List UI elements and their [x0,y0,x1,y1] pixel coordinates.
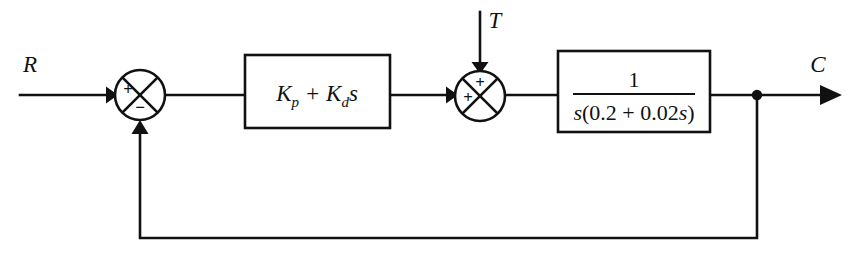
plant-denominator-close-paren: ) [687,100,694,125]
plant-denominator-s-lead: s [573,100,582,125]
plant-denominator-coef-a: 0.2 [589,100,617,125]
plant-denominator: s(0.2 + 0.02s) [573,100,694,125]
output-arrowhead [820,85,842,105]
plant-denominator-s-trail: s [679,100,688,125]
disturbance-junction-top-plus-sign: + [475,73,485,92]
controller-s-symbol: s [349,81,358,106]
output-label: C [810,52,826,77]
plant-numerator: 1 [629,67,640,92]
disturbance-input-label: T [489,8,504,33]
controller-block[interactable]: Kp + Kds [245,55,390,128]
controller-plus-operator: + [299,81,326,106]
controller-kp-symbol: K [275,81,293,106]
disturbance-junction-left-plus-sign: + [463,88,473,107]
plant-denominator-coef-b: 0.02 [640,100,679,125]
block-diagram-svg: + − + + Kp + Kds 1 s(0.2 + 0.02s) [0,0,854,256]
plant-denominator-open-paren: ( [582,100,589,125]
error-summing-junction: + − [115,70,165,120]
block-diagram-canvas: + − + + Kp + Kds 1 s(0.2 + 0.02s) [0,0,854,256]
plant-denominator-plus-operator: + [617,100,640,125]
error-junction-minus-sign: − [135,98,145,117]
plant-block[interactable]: 1 s(0.2 + 0.02s) [558,51,710,132]
error-junction-plus-sign: + [123,80,133,99]
controller-kd-symbol: K [325,81,343,106]
disturbance-summing-junction: + + [455,71,505,121]
feedback-arrowhead [132,120,149,134]
reference-input-label: R [22,52,37,77]
